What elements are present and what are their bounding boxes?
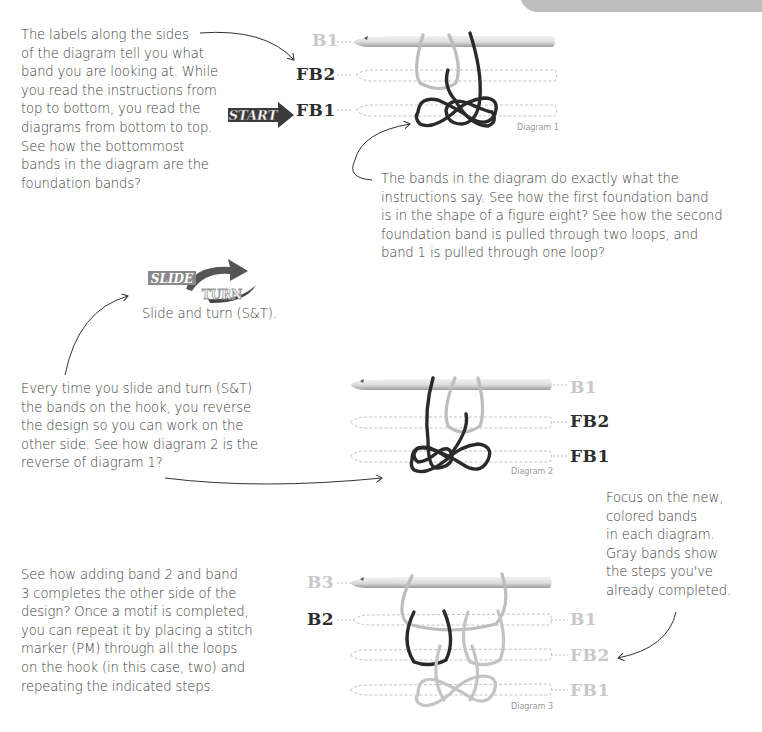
band-fb1-light-figure-eight — [416, 676, 495, 706]
diagram-3 — [337, 574, 568, 706]
arrow-to-fb2-gray — [618, 612, 676, 658]
arrow-to-figure-eight — [355, 124, 410, 160]
diagram-drawings — [0, 0, 762, 732]
band-fb1-figure-eight — [411, 444, 489, 472]
band-fb2-light-left — [436, 646, 444, 700]
arrow-to-slide-logo — [65, 296, 128, 375]
pointer-arrows — [65, 32, 676, 658]
crochet-hook-3 — [350, 577, 552, 588]
diagram-1 — [337, 33, 557, 126]
band-fb2-dark — [414, 378, 467, 468]
diagram-2 — [350, 378, 568, 472]
arrow-to-diagram2 — [165, 478, 382, 484]
band-b2-dark — [407, 611, 451, 665]
arrow-tail-bands-note — [353, 160, 372, 180]
arrow-to-fb2-label — [200, 32, 294, 60]
band-b1-light — [463, 611, 503, 665]
band-fb2-light-right — [470, 646, 478, 700]
